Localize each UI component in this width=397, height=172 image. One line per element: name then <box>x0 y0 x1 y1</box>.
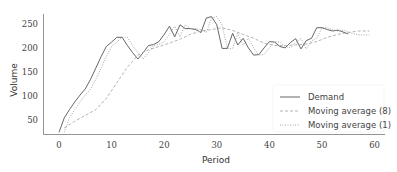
x-tick-label: 0 <box>56 140 61 150</box>
legend-label-demand: Demand <box>308 92 344 102</box>
y-tick-label: 100 <box>22 91 38 101</box>
legend-label-moving-average-8: Moving average (8) <box>308 106 391 116</box>
y-axis-label: Volume <box>9 63 19 97</box>
legend-label-moving-average-1: Moving average (1) <box>308 120 391 130</box>
line-chart: 50100150200250 0102030405060 Period Volu… <box>0 0 397 172</box>
x-tick-labels: 0102030405060 <box>56 140 380 150</box>
y-tick-label: 50 <box>27 115 38 125</box>
y-tick-labels: 50100150200250 <box>22 19 38 125</box>
x-tick-label: 60 <box>369 140 380 150</box>
y-tick-label: 250 <box>22 19 38 29</box>
y-tick-label: 150 <box>22 67 38 77</box>
y-tick-label: 200 <box>22 43 38 53</box>
x-tick-label: 40 <box>264 140 275 150</box>
legend: Demand Moving average (8) Moving average… <box>273 85 391 132</box>
x-tick-label: 30 <box>211 140 222 150</box>
x-tick-label: 20 <box>159 140 170 150</box>
x-tick-label: 10 <box>106 140 117 150</box>
x-tick-label: 50 <box>317 140 328 150</box>
x-axis-label: Period <box>202 155 230 165</box>
